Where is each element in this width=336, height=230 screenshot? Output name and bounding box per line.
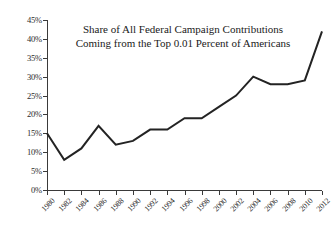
y-tick-label: 35% (27, 54, 42, 63)
x-tick-label: 1990 (121, 197, 142, 218)
x-tick (99, 191, 100, 195)
x-tick-label: 1992 (139, 197, 160, 218)
y-tick-label: 30% (27, 73, 42, 82)
x-tick (322, 191, 323, 195)
x-tick-label: 1988 (104, 197, 125, 218)
x-tick-label: 1994 (156, 197, 177, 218)
x-tick-label: 1984 (70, 197, 91, 218)
x-tick (288, 191, 289, 195)
x-tick-label: 2004 (242, 197, 263, 218)
series-plot (47, 20, 322, 190)
x-tick-label: 2006 (259, 197, 280, 218)
x-tick (64, 191, 65, 195)
y-tick-label: 10% (27, 148, 42, 157)
y-tick-label: 0% (31, 186, 42, 195)
y-tick-label: 25% (27, 92, 42, 101)
x-tick-label: 1986 (87, 197, 108, 218)
x-tick-label: 2002 (225, 197, 246, 218)
x-tick (116, 191, 117, 195)
y-tick-label: 15% (27, 129, 42, 138)
x-tick-label: 1982 (53, 197, 74, 218)
y-tick-label: 5% (31, 167, 42, 176)
x-tick-label: 2000 (207, 197, 228, 218)
series-line-contributions-share (47, 31, 322, 159)
x-tick-label: 2010 (293, 197, 314, 218)
chart-container: Share of All Federal Campaign Contributi… (0, 0, 336, 230)
x-tick (270, 191, 271, 195)
x-tick (185, 191, 186, 195)
y-tick-label: 20% (27, 110, 42, 119)
x-tick (167, 191, 168, 195)
x-tick-label: 2008 (276, 197, 297, 218)
y-tick-label: 45% (27, 16, 42, 25)
x-tick-label: 1996 (173, 197, 194, 218)
x-tick-label: 2012 (310, 197, 331, 218)
x-tick (253, 191, 254, 195)
x-tick (81, 191, 82, 195)
y-tick-label: 40% (27, 35, 42, 44)
x-tick (133, 191, 134, 195)
x-tick (47, 191, 48, 195)
x-tick-label: 1998 (190, 197, 211, 218)
x-tick (150, 191, 151, 195)
x-tick (202, 191, 203, 195)
x-tick (305, 191, 306, 195)
x-tick-label: 1980 (35, 197, 56, 218)
x-tick (236, 191, 237, 195)
x-tick (219, 191, 220, 195)
